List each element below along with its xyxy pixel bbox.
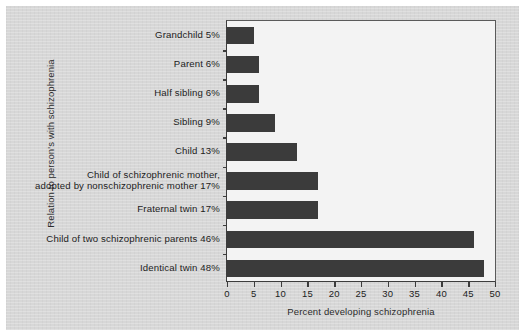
category-label-line: Child of two schizophrenic parents 46% (46, 233, 220, 245)
category-label: Identical twin 48% (140, 262, 220, 274)
category-label: Child of schizophrenic mother,adopted by… (35, 169, 220, 192)
x-axis-tick-label: 50 (490, 288, 501, 299)
category-label-line: Sibling 9% (173, 116, 220, 128)
x-axis-tick (254, 282, 255, 287)
bar (227, 231, 474, 249)
x-axis-tick (307, 282, 308, 287)
x-axis-tick (495, 282, 496, 287)
x-axis-tick-label: 20 (329, 288, 340, 299)
x-axis-tick (415, 282, 416, 287)
bar (227, 114, 275, 132)
x-axis-tick (441, 282, 442, 287)
x-axis-tick (388, 282, 389, 287)
category-label-line: Grandchild 5% (155, 29, 220, 41)
figure-panel: Relation to person's with schizophrenia … (6, 6, 519, 330)
category-label-line: adopted by nonschizophrenic mother 17% (35, 180, 220, 192)
category-label-line: Identical twin 48% (140, 262, 220, 274)
x-axis-tick-label: 30 (382, 288, 393, 299)
category-label: Parent 6% (174, 58, 220, 70)
category-label-line: Fraternal twin 17% (137, 203, 220, 215)
y-axis-tick (223, 50, 228, 51)
x-axis-tick-label: 10 (275, 288, 286, 299)
bar (227, 27, 254, 45)
x-axis-tick (361, 282, 362, 287)
category-label-line: Half sibling 6% (154, 87, 220, 99)
x-axis-tick-labels: 05101520253035404550 (226, 288, 496, 302)
bar-series (227, 21, 495, 281)
category-label: Grandchild 5% (155, 29, 220, 41)
x-axis-tick (334, 282, 335, 287)
x-axis-tick-label: 35 (409, 288, 420, 299)
y-axis-tick (223, 167, 228, 168)
x-axis-tick-label: 45 (463, 288, 474, 299)
y-axis-tick (223, 79, 228, 80)
x-axis-tick-label: 0 (224, 288, 229, 299)
bar (227, 172, 318, 190)
category-label-line: Child 13% (175, 145, 220, 157)
y-axis-tick (223, 225, 228, 226)
bar (227, 143, 297, 161)
category-label: Child 13% (175, 145, 220, 157)
x-axis-tick-label: 25 (356, 288, 367, 299)
category-label: Child of two schizophrenic parents 46% (46, 233, 220, 245)
x-axis-tick (227, 282, 228, 287)
category-label-column: Grandchild 5%Parent 6%Half sibling 6%Sib… (14, 20, 226, 282)
plot-area (226, 20, 496, 282)
bar (227, 85, 259, 103)
bar (227, 56, 259, 74)
category-label: Fraternal twin 17% (137, 203, 220, 215)
y-axis-tick (223, 108, 228, 109)
category-label: Half sibling 6% (154, 87, 220, 99)
x-axis-tick-label: 15 (302, 288, 313, 299)
bar (227, 201, 318, 219)
x-axis-tick-label: 5 (251, 288, 256, 299)
bar (227, 260, 484, 278)
category-label-line: Child of schizophrenic mother, (35, 169, 220, 181)
category-label-line: Parent 6% (174, 58, 220, 70)
x-axis-tick (468, 282, 469, 287)
x-axis-tick-label: 40 (436, 288, 447, 299)
y-axis-tick (223, 254, 228, 255)
category-label: Sibling 9% (173, 116, 220, 128)
y-axis-tick (223, 137, 228, 138)
y-axis-tick (223, 196, 228, 197)
x-axis-tick (281, 282, 282, 287)
x-axis-title: Percent developing schizophrenia (226, 306, 496, 317)
